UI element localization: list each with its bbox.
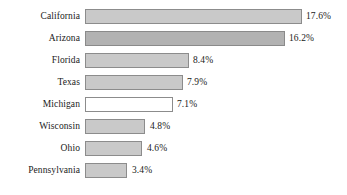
- value-label: 16.2%: [289, 31, 314, 46]
- bar: [85, 119, 145, 134]
- bar-row: Arizona 16.2%: [0, 31, 347, 46]
- bar: [85, 163, 127, 178]
- bar: [85, 97, 173, 112]
- bar-row: Wisconsin 4.8%: [0, 119, 347, 134]
- bar-row: Texas 7.9%: [0, 75, 347, 90]
- bar-track: [85, 141, 142, 156]
- bar-row: Michigan 7.1%: [0, 97, 347, 112]
- category-label: Arizona: [0, 31, 80, 46]
- category-label: California: [0, 9, 80, 24]
- bar-row: Pennsylvania 3.4%: [0, 163, 347, 178]
- value-label: 7.9%: [187, 75, 207, 90]
- bar: [85, 9, 302, 24]
- category-label: Wisconsin: [0, 119, 80, 134]
- category-label: Florida: [0, 53, 80, 68]
- bar-track: [85, 75, 183, 90]
- value-label: 8.4%: [193, 53, 213, 68]
- bar-track: [85, 53, 189, 68]
- bar-row: Ohio 4.6%: [0, 141, 347, 156]
- value-label: 7.1%: [177, 97, 197, 112]
- value-label: 3.4%: [132, 163, 152, 178]
- value-label: 17.6%: [306, 9, 331, 24]
- category-label: Michigan: [0, 97, 80, 112]
- category-label: Pennsylvania: [0, 163, 80, 178]
- bar-track: [85, 31, 285, 46]
- value-label: 4.8%: [150, 119, 170, 134]
- bar-track: [85, 163, 127, 178]
- bar-row: California 17.6%: [0, 9, 347, 24]
- value-label: 4.6%: [147, 141, 167, 156]
- bar-track: [85, 9, 302, 24]
- bar-track: [85, 119, 145, 134]
- bar: [85, 75, 183, 90]
- bar-track: [85, 97, 173, 112]
- category-label: Texas: [0, 75, 80, 90]
- bar: [85, 31, 285, 46]
- bar: [85, 53, 189, 68]
- bar-chart: California 17.6% Arizona 16.2% Florida 8…: [0, 0, 347, 195]
- bar-row: Florida 8.4%: [0, 53, 347, 68]
- bar: [85, 141, 142, 156]
- category-label: Ohio: [0, 141, 80, 156]
